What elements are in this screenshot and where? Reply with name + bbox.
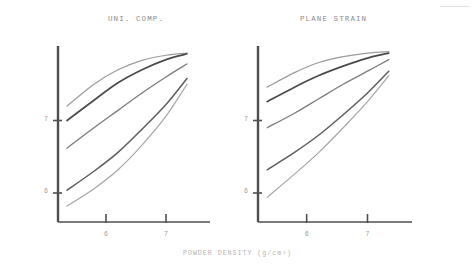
curve-3 (267, 60, 389, 128)
curve-1 (67, 53, 187, 106)
figure-canvas: UNI. COMP. PLANE STRAIN POWDER DENSITY (… (0, 0, 476, 275)
curve-5 (67, 84, 187, 206)
plot-drawing-area (0, 0, 476, 275)
curve-4 (267, 71, 389, 170)
y-tick-label-right-7: 7 (244, 116, 248, 123)
x-tick-label-right-7: 7 (366, 231, 370, 238)
y-tick-label-left-7: 7 (44, 116, 48, 123)
x-tick-label-right-6: 6 (305, 231, 309, 238)
x-tick-label-left-7: 7 (164, 231, 168, 238)
scan-edge-artifact-top (440, 6, 470, 7)
y-tick-label-left-6: 6 (44, 188, 48, 195)
curve-2 (67, 54, 187, 121)
x-tick-label-left-6: 6 (104, 231, 108, 238)
y-tick-label-right-6: 6 (244, 188, 248, 195)
